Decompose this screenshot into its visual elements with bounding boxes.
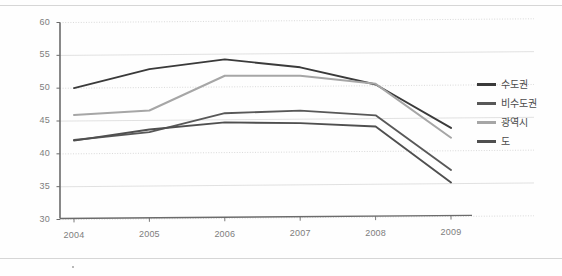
legend-label: 도 [501, 137, 510, 147]
x-tick-label-2006: 2006 [205, 229, 245, 239]
chart-legend: 수도권비수도권광역시도 [477, 76, 561, 152]
legend-item-2[interactable]: 광역시 [477, 114, 561, 131]
y-tick-label-55: 55 [26, 49, 50, 59]
y-tick-label-60: 60 [26, 17, 50, 27]
series-line-3 [74, 122, 451, 182]
x-tick-label-2009: 2009 [431, 227, 471, 237]
y-tick-label-45: 45 [26, 115, 50, 125]
x-tick-label-2004: 2004 [54, 230, 94, 240]
series-line-0 [74, 59, 451, 128]
legend-label: 비수도권 [501, 99, 537, 109]
grid-lines [60, 19, 534, 220]
legend-label: 광역시 [501, 118, 528, 128]
legend-swatch-icon [477, 83, 496, 86]
y-tick-label-50: 50 [26, 82, 50, 92]
legend-item-3[interactable]: 도 [477, 133, 561, 150]
legend-item-1[interactable]: 비수도권 [477, 95, 561, 112]
chart-screenshot: 60555045403530 200420052006200720082009 … [0, 0, 562, 276]
scan-artifact-speck [72, 266, 74, 268]
legend-swatch-icon [477, 140, 496, 143]
x-tick-label-2008: 2008 [356, 228, 396, 238]
y-tick-label-30: 30 [26, 214, 50, 224]
legend-swatch-icon [477, 121, 496, 124]
legend-label: 수도권 [501, 80, 528, 90]
x-tick-label-2005: 2005 [129, 229, 169, 239]
legend-swatch-icon [477, 102, 496, 105]
legend-item-0[interactable]: 수도권 [477, 76, 561, 93]
y-tick-label-40: 40 [26, 148, 50, 158]
x-tick-label-2007: 2007 [280, 228, 320, 238]
y-tick-label-35: 35 [26, 181, 50, 191]
